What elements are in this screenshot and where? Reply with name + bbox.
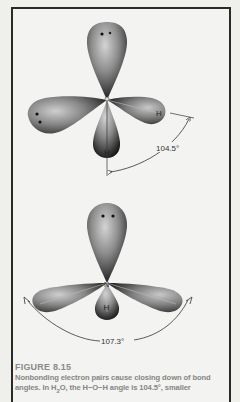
figure-caption: FIGURE 8.15 Nonbonding electron pairs ca…	[15, 362, 227, 396]
caption-line-1: Nonbonding electron pairs cause closing …	[15, 373, 227, 383]
electron-dot	[38, 120, 41, 123]
electron-dot	[109, 32, 112, 35]
angle-label-107: 107.3°	[101, 337, 124, 346]
orbital-diagrams: H H 104.5°	[0, 0, 240, 402]
electron-dot	[100, 32, 103, 35]
lone-pair-lobe-top	[87, 22, 127, 100]
electron-dot	[101, 214, 104, 217]
hydrogen-label: H	[156, 109, 162, 118]
electron-dot	[111, 214, 114, 217]
central-atom-nitrogen: N	[104, 281, 109, 288]
hydrogen-label: H	[104, 303, 110, 312]
caption-text: angles. In H	[15, 383, 56, 392]
caption-text: O, the H−O−H angle is 104.5°, smaller	[60, 383, 191, 392]
caption-line-2: angles. In H2O, the H−O−H angle is 104.5…	[15, 383, 227, 396]
electron-dot	[35, 112, 38, 115]
central-atom-oxygen	[105, 97, 109, 101]
ammonia-diagram: H N 107.3°	[24, 203, 192, 346]
figure-page: H H 104.5°	[0, 0, 240, 402]
lone-pair-lobe-left	[28, 96, 107, 133]
water-diagram: H H 104.5°	[28, 22, 194, 176]
figure-number: FIGURE 8.15	[15, 362, 227, 373]
lone-pair-lobe-top	[87, 203, 127, 283]
hydrogen-label: H	[104, 148, 110, 157]
angle-label-104: 104.5°	[156, 144, 179, 153]
